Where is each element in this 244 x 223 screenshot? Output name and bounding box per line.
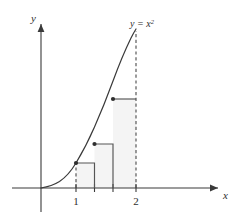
y-axis-label: y <box>30 12 36 24</box>
x-axis-label: x <box>222 189 228 201</box>
y-axis-arrow-icon <box>38 24 45 32</box>
riemann-rect-1-fill <box>76 163 95 188</box>
curve-equation-label: y = x2 <box>129 18 155 30</box>
riemann-rect-2-fill <box>95 144 114 188</box>
curve-equation-base: y = x <box>129 18 151 29</box>
x-tick-label-1: 1 <box>73 195 79 207</box>
sample-point-3 <box>111 97 115 101</box>
riemann-sum-figure: y x 1 2 y = x2 <box>0 0 244 223</box>
riemann-rect-3-fill <box>113 99 136 188</box>
x-tick-label-2: 2 <box>133 195 139 207</box>
sample-point-1 <box>74 161 78 165</box>
figure-canvas: y x 1 2 y = x2 <box>0 0 244 223</box>
y-axis <box>38 24 45 212</box>
sample-point-2 <box>92 142 96 146</box>
x-axis-arrow-icon <box>210 185 218 192</box>
curve-equation-exponent: 2 <box>151 18 155 25</box>
